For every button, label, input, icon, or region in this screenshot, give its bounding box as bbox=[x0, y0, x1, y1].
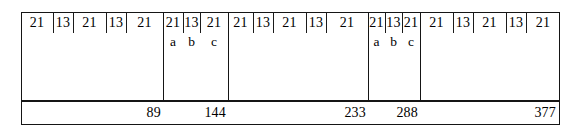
cell-value: 13 bbox=[453, 13, 473, 33]
scale-tick-89 bbox=[163, 90, 164, 101]
cell-value: 13 bbox=[106, 13, 126, 33]
scale-tick-288 bbox=[420, 90, 421, 101]
cell-value: 21 bbox=[526, 13, 560, 33]
sub-label-a: a bbox=[368, 33, 385, 51]
sub-label-a: a bbox=[163, 33, 183, 51]
interval-diagram: 21 13 21 13 21 21 13 21 21 13 21 13 21 2… bbox=[0, 0, 581, 132]
cell-value: 21 bbox=[473, 13, 506, 33]
cell-value: 13 bbox=[506, 13, 526, 33]
cell-value: 21 bbox=[228, 13, 253, 33]
sub-label-c: c bbox=[200, 33, 228, 51]
cell-value: 21 bbox=[273, 13, 306, 33]
scale-tick-144 bbox=[228, 90, 229, 101]
cell-value: 21 bbox=[420, 13, 453, 33]
cell-value: 21 bbox=[326, 13, 368, 33]
scale-value-377: 377 bbox=[508, 103, 556, 123]
cell-value: 13 bbox=[183, 13, 200, 33]
cell-value: 21 bbox=[368, 13, 385, 33]
sub-label-b: b bbox=[183, 33, 200, 51]
cell-value: 21 bbox=[200, 13, 228, 33]
sub-label-b: b bbox=[385, 33, 402, 51]
cell-value: 13 bbox=[306, 13, 326, 33]
cell-value: 13 bbox=[385, 13, 402, 33]
scale-value-233: 233 bbox=[318, 103, 366, 123]
cell-value: 21 bbox=[163, 13, 183, 33]
scale-value-288: 288 bbox=[370, 103, 418, 123]
sub-label-c: c bbox=[402, 33, 420, 51]
scale-value-89: 89 bbox=[118, 103, 161, 123]
cell-value: 21 bbox=[126, 13, 163, 33]
scale-value-144: 144 bbox=[178, 103, 226, 123]
cell-value: 21 bbox=[21, 13, 53, 33]
scale-tick-233 bbox=[368, 90, 369, 101]
cell-value: 13 bbox=[53, 13, 73, 33]
cell-value: 13 bbox=[253, 13, 273, 33]
cell-value: 21 bbox=[73, 13, 106, 33]
cell-value: 21 bbox=[402, 13, 420, 33]
scale-band-frame bbox=[21, 101, 560, 125]
